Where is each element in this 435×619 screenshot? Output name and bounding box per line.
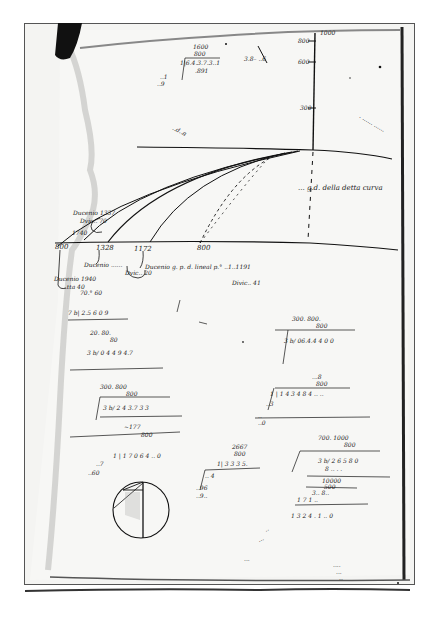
- calc-right-2-line-4: ..3: [266, 401, 274, 408]
- under-note-1: Ducenio ......: [84, 262, 122, 268]
- under-note-2b: Divic.. 41: [232, 280, 261, 286]
- curve-label: ... g.d. della detta curva: [298, 185, 383, 192]
- calc-left-2-line-2: 800: [126, 391, 137, 398]
- scale-tick-300: 300: [300, 105, 311, 111]
- calc-right-1-line-3: 3 b/ 06.4.4 4 0 0: [284, 338, 334, 345]
- top-calc-line-3: 1|6.4.3.7.3..1: [180, 60, 220, 67]
- baseline-tick-1: 1328: [96, 245, 114, 252]
- calc-right-3-line-2: 800: [344, 442, 355, 449]
- bottom-right-3: ..: [339, 575, 343, 582]
- calc-left-2-line-4: ~177: [124, 424, 140, 431]
- top-calc-line-6: ..9: [157, 81, 165, 88]
- calc-left-1-line-3: 80: [110, 337, 118, 344]
- calc-middle-line-2: 800: [234, 451, 245, 458]
- top-calc-line-2: 800: [194, 51, 205, 58]
- left-note-upper-1: Ducenio 1337: [73, 210, 115, 216]
- top-note: 3.8– ..6: [244, 56, 266, 63]
- calc-middle-line-4: .. 4: [205, 473, 215, 480]
- scale-tick-800: 800: [298, 38, 309, 44]
- calc-left-1-line-1: 7 b| 2.5 6 0 9: [68, 310, 108, 317]
- calc-left-2-line-1: 300. 800: [100, 384, 127, 391]
- baseline-tick-2: 1172: [134, 246, 152, 253]
- calc-left-3-line-3: ..60: [88, 470, 99, 477]
- calc-left-1-line-2: 20. 80.: [90, 330, 111, 337]
- baseline-tick-3: 800: [197, 245, 210, 252]
- calc-right-1-line-2: 800: [316, 323, 327, 330]
- calc-left-2-line-5: 800: [141, 432, 152, 439]
- top-calc-line-4: .891: [195, 68, 208, 75]
- calc-left-3-line-2: ..7: [96, 461, 104, 468]
- calc-right-3-line-8: 1 7 1 ..: [297, 497, 318, 504]
- calc-right-3-line-4: 8 .. . .: [325, 466, 342, 473]
- calc-right-2-line-6: ..0: [258, 420, 266, 427]
- under-note-2: Ducenio g. p. d. lineal p.° ..1..1191: [145, 264, 251, 270]
- calc-middle-line-6: ..9..: [196, 493, 207, 500]
- left-note-upper-2: Dvic.. 70: [80, 218, 107, 224]
- calc-left-1-line-4: 3 b/ 0 4 4 9 4.7: [87, 350, 133, 357]
- left-note-lower-tick: 1740: [72, 230, 87, 236]
- calc-left-3-line-1: 1 | 1 7 0 6 4 .. 0: [113, 453, 161, 460]
- scale-tick-600: 600: [298, 59, 309, 65]
- calc-middle-line-5: ..96: [196, 485, 207, 492]
- under-note-4: 70.° 60: [80, 290, 102, 296]
- baseline-tick-0: 800: [55, 244, 68, 251]
- calc-middle-line-3: 1| 3 3 3 5.: [217, 461, 248, 468]
- under-note-3: Ducenio 1940: [54, 276, 96, 282]
- calc-right-2-line-2: 800: [316, 381, 327, 388]
- calc-right-3-line-9: 1 3 2 4 . 1 .. 0: [291, 513, 333, 520]
- under-note-1b: Dvic.. 20: [125, 270, 152, 276]
- scale-top-label: 1000: [320, 30, 335, 36]
- calc-right-2-line-3: 1 | 1 4 3 4 8 4 .. ..: [270, 391, 324, 398]
- calc-right-3-line-3: 3 b/ 2 6 5 8 0: [318, 458, 358, 465]
- manuscript-drawing: [0, 0, 435, 619]
- calc-left-2-line-3: 3 b/ 2 4 3.7 3 3: [103, 405, 149, 412]
- bottom-scatter-3: ...: [244, 556, 250, 563]
